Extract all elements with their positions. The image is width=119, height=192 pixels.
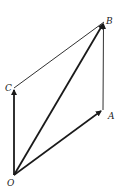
label-o: O [7,178,15,188]
label-c: C [5,83,12,93]
vector-a-to-b [103,24,104,110]
vector-diagram: O C B A [0,0,119,192]
label-a: A [107,111,115,121]
line-c-to-b [14,22,104,88]
vector-o-to-b [14,24,103,175]
vector-o-to-a [14,111,101,175]
label-b: B [105,16,113,26]
